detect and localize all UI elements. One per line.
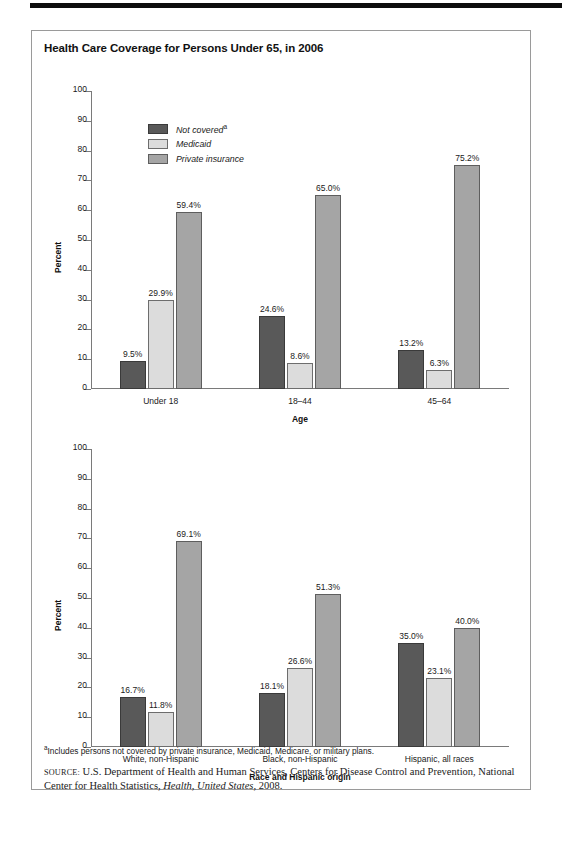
legend-item: Private insurance [148,151,244,166]
bar: 29.9% [148,300,174,389]
bar: 16.7% [120,697,146,747]
bar: 9.5% [120,361,146,389]
bar-value-label: 13.2% [399,338,423,348]
plot-area-race: 0102030405060708090100 16.7%11.8%69.1%Wh… [91,449,509,747]
y-tick-label: 60 [78,561,87,571]
bar: 69.1% [176,541,202,747]
figure-source: SOURCE: U.S. Department of Health and Hu… [44,765,522,792]
y-tick-label: 80 [78,502,87,512]
y-tick-label: 90 [78,114,87,124]
bar-group: 13.2%6.3%75.2%45–64 [370,91,509,389]
x-tick-label: Under 18 [143,396,178,406]
bar: 65.0% [315,195,341,389]
bar-value-label: 11.8% [149,700,172,710]
source-label: SOURCE: [44,768,80,777]
legend-swatch-medicaid [148,139,168,149]
bar-value-label: 26.6% [288,656,312,666]
y-tick-label: 0 [82,382,87,392]
bar-value-label: 9.5% [123,349,142,359]
chart-race: Percent 0102030405060708090100 16.7%11.8… [32,431,532,771]
bar-group: 35.0%23.1%40.0%Hispanic, all races [370,449,509,747]
legend-item: Not covereda [148,121,244,136]
legend-label-medicaid: Medicaid [176,139,211,149]
bar-value-label: 75.2% [455,153,479,163]
y-tick-label: 40 [78,263,87,273]
bar: 6.3% [426,370,452,389]
bar: 26.6% [287,668,313,747]
y-axis-title-race: Percent [53,600,63,631]
bar: 23.1% [426,678,452,747]
bar: 35.0% [398,643,424,747]
source-text-part2: , 2008. [253,780,282,791]
page-top-rule [30,3,562,8]
bar-value-label: 8.6% [290,351,309,361]
y-tick-label: 30 [78,651,87,661]
bar: 18.1% [259,693,285,747]
y-tick-label: 70 [78,531,87,541]
bar: 40.0% [454,628,480,747]
x-tick-label: 45–64 [427,396,451,406]
bar-value-label: 29.9% [149,288,173,298]
bar-value-label: 69.1% [177,529,201,539]
chart-age: Percent 0102030405060708090100 9.5%29.9%… [32,73,532,428]
y-tick-label: 20 [78,322,87,332]
bar: 8.6% [287,363,313,389]
chart-legend: Not covereda Medicaid Private insurance [148,121,244,166]
bar-value-label: 35.0% [399,631,423,641]
bar-value-label: 40.0% [455,616,479,626]
y-tick-label: 20 [78,680,87,690]
legend-swatch-not-covered [148,124,168,134]
legend-swatch-private-insurance [148,154,168,164]
bar: 51.3% [315,594,341,747]
bar-value-label: 18.1% [260,681,284,691]
footnote-text: Includes persons not covered by private … [48,746,375,756]
bar: 11.8% [148,712,174,747]
bar: 59.4% [176,212,202,389]
y-tick-label: 30 [78,293,87,303]
bar-value-label: 51.3% [316,582,340,592]
y-tick-label: 60 [78,203,87,213]
legend-label-not-covered: Not covereda [176,123,227,135]
y-tick-label: 10 [78,710,87,720]
y-axis-title-age: Percent [53,242,63,273]
y-tick-label: 10 [78,352,87,362]
bar: 24.6% [259,316,285,389]
x-axis-title-age: Age [91,414,509,424]
bar-group: 18.1%26.6%51.3%Black, non-Hispanic [230,449,369,747]
figure-page: Health Care Coverage for Persons Under 6… [0,0,562,844]
bar-value-label: 65.0% [316,183,340,193]
x-tick-label: 18–44 [288,396,312,406]
bar-group: 16.7%11.8%69.1%White, non-Hispanic [91,449,230,747]
y-tick-label: 50 [78,591,87,601]
bar-value-label: 24.6% [260,304,284,314]
bar-group: 24.6%8.6%65.0%18–44 [230,91,369,389]
y-tick-label: 90 [78,472,87,482]
figure-footnote: aIncludes persons not covered by private… [44,744,522,756]
legend-item: Medicaid [148,136,244,151]
bar-value-label: 59.4% [177,200,201,210]
y-tick-label: 50 [78,233,87,243]
bar: 13.2% [398,350,424,389]
y-tick-label: 100 [73,84,87,94]
figure-title: Health Care Coverage for Persons Under 6… [44,42,323,54]
y-tick-label: 80 [78,144,87,154]
bar-value-label: 6.3% [430,358,449,368]
y-tick-label: 100 [73,442,87,452]
bar: 75.2% [454,165,480,389]
figure-container: Health Care Coverage for Persons Under 6… [31,30,531,790]
y-tick-label: 70 [78,173,87,183]
bar-value-label: 23.1% [427,666,451,676]
source-publication-title: Health, United States [163,780,253,791]
y-tick-label: 40 [78,621,87,631]
bar-value-label: 16.7% [121,685,145,695]
legend-label-private-insurance: Private insurance [176,154,244,164]
